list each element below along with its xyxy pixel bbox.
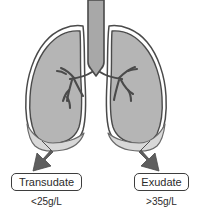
transudate-protein-value: <25g/L [11, 197, 82, 207]
trachea-group [88, 0, 104, 76]
left-lung-group [26, 26, 86, 151]
exudate-protein-value: >35g/L [134, 197, 189, 207]
transudate-label: Transudate [19, 177, 74, 188]
label-box-transudate[interactable]: Transudate [11, 173, 82, 191]
left-lung-body [30, 31, 82, 144]
right-lung-body [110, 31, 162, 144]
label-box-exudate[interactable]: Exudate [134, 173, 189, 191]
exudate-label: Exudate [141, 177, 181, 188]
pleural-effusion-figure: Transudate <25g/L Exudate >35g/L [0, 0, 198, 217]
right-lung-group [106, 26, 166, 151]
trachea [88, 0, 104, 76]
